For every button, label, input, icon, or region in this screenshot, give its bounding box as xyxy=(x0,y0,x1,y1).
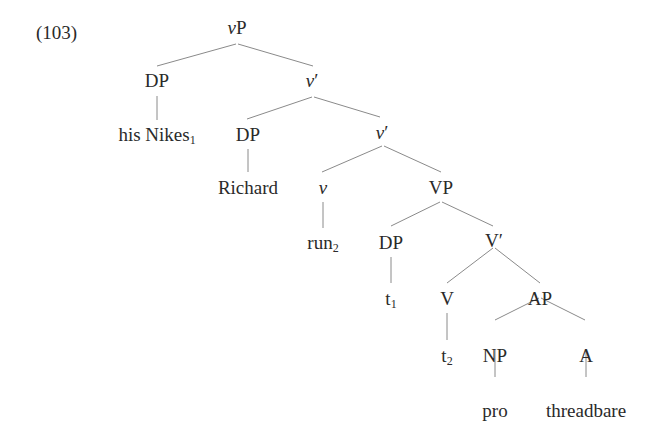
node-A: A xyxy=(579,346,593,365)
leaf-t1: t1 xyxy=(385,289,396,308)
tree-branches xyxy=(0,0,663,422)
leaf-run: run2 xyxy=(307,233,338,252)
node-AP: AP xyxy=(528,289,552,308)
leaf-t1-index: 1 xyxy=(391,297,397,311)
branch-vbar-vbar2 xyxy=(314,97,380,117)
node-Vbar: V′ xyxy=(485,231,503,250)
leaf-t2-index: 2 xyxy=(447,354,453,368)
leaf-threadbare: threadbare xyxy=(546,401,626,420)
node-vbar-upper-prime: ′ xyxy=(314,70,318,91)
node-vP-rest: P xyxy=(236,17,247,38)
node-DP-trace: DP xyxy=(379,233,403,252)
node-v-head-label: v xyxy=(319,177,327,198)
leaf-his-nikes-index: 1 xyxy=(190,133,196,147)
node-vbar-lower: v′ xyxy=(376,123,389,142)
branch-vbar-DP xyxy=(247,97,312,119)
branch-Vbar-AP xyxy=(495,248,540,283)
branch-Vbar-V xyxy=(447,248,493,283)
node-NP: NP xyxy=(483,346,507,365)
branch-VP-Vbar xyxy=(442,202,493,226)
leaf-t2: t2 xyxy=(441,346,452,365)
leaf-richard: Richard xyxy=(218,178,278,197)
node-vP: vP xyxy=(227,18,246,37)
leaf-run-index: 2 xyxy=(333,241,339,255)
node-vbar-lower-prime: ′ xyxy=(384,122,388,143)
node-vbar-upper: v′ xyxy=(306,71,319,90)
branch-vbar2-VP xyxy=(384,146,441,172)
leaf-his-nikes: his Nikes1 xyxy=(118,125,195,144)
node-VP: VP xyxy=(429,178,453,197)
branch-vP-vbar xyxy=(238,44,313,66)
branch-vbar2-v xyxy=(322,146,382,172)
node-DP-subject: DP xyxy=(145,71,169,90)
branch-VP-DP xyxy=(391,202,440,226)
node-V: V xyxy=(440,289,454,308)
branch-vP-DP xyxy=(157,44,236,66)
leaf-pro: pro xyxy=(482,401,507,420)
leaf-his-nikes-text: his Nikes xyxy=(118,124,189,145)
node-v-head: v xyxy=(319,178,327,197)
example-number: (103) xyxy=(36,22,77,44)
node-DP-richard: DP xyxy=(236,125,260,144)
leaf-run-text: run xyxy=(307,232,332,253)
